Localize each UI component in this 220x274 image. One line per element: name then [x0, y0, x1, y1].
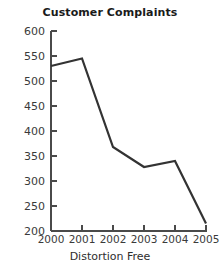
- x-tick-label: 2001: [69, 233, 96, 245]
- x-axis-tick-marks: [51, 225, 206, 231]
- x-tick-label: 2005: [193, 233, 220, 245]
- x-tick-label: 2003: [131, 233, 158, 245]
- y-tick-label: 250: [24, 200, 45, 213]
- y-tick-label: 450: [24, 100, 45, 113]
- chart-container: Customer Complaints 60055050045040035030…: [0, 0, 220, 274]
- y-tick-label: 350: [24, 150, 45, 163]
- y-tick-label: 400: [24, 125, 45, 138]
- x-tick-label: 2000: [38, 233, 65, 245]
- x-tick-label: 2004: [162, 233, 189, 245]
- y-tick-label: 600: [24, 25, 45, 38]
- y-axis-tick-labels: 600550500450400350300250200: [24, 25, 45, 238]
- line-chart-plot: 600550500450400350300250200 200020012002…: [0, 0, 220, 274]
- y-tick-label: 300: [24, 175, 45, 188]
- y-tick-label: 500: [24, 75, 45, 88]
- data-series-line: [51, 59, 206, 224]
- x-axis-label: Distortion Free: [0, 250, 220, 263]
- x-axis-tick-labels: 200020012002200320042005: [38, 233, 220, 245]
- x-tick-label: 2002: [100, 233, 127, 245]
- y-axis-tick-marks: [51, 31, 57, 231]
- y-tick-label: 550: [24, 50, 45, 63]
